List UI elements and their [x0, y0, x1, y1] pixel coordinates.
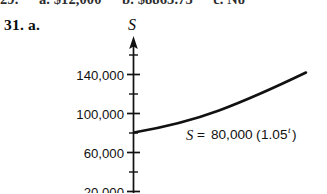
equation-coefficient: 80,000 — [211, 127, 253, 142]
y-tick-label-100000: 100,000 — [76, 107, 124, 122]
y-tick-label-20000: 20,000 — [84, 185, 124, 194]
equation-equals: = — [197, 127, 205, 142]
equation-exponent: t — [288, 125, 291, 135]
y-tick-label-140000: 140,000 — [76, 68, 124, 83]
y-tick-label-60000: 60,000 — [84, 146, 124, 161]
exponential-curve — [134, 73, 306, 133]
graph-figure: S 140,000 100,000 60,000 20,000 S = 80,0… — [0, 0, 327, 193]
equation-close-paren: ) — [292, 127, 297, 142]
y-axis-label: S — [128, 16, 136, 33]
curve-equation-annotation: S = 80,000 ( 1.05 t ) — [186, 125, 297, 143]
equation-lhs: S — [186, 127, 194, 143]
equation-base: 1.05 — [261, 127, 287, 142]
